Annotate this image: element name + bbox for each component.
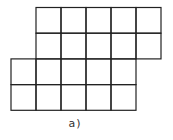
grid-cell: [61, 85, 86, 111]
grid-cell: [86, 85, 111, 111]
grid-cell: [11, 59, 36, 85]
grid-cell: [111, 8, 136, 34]
grid-cell: [61, 33, 86, 59]
figure-caption: a): [60, 117, 90, 130]
grid-cell: [11, 85, 36, 111]
grid-cell: [136, 8, 161, 34]
grid-cell: [86, 33, 111, 59]
grid-cell: [136, 33, 161, 59]
grid-cell: [36, 33, 61, 59]
grid-cell: [86, 59, 111, 85]
grid-cell: [36, 59, 61, 85]
grid-cell: [36, 85, 61, 111]
grid-cell: [36, 8, 61, 34]
grid-cells: [11, 8, 161, 111]
grid-cell: [111, 85, 136, 111]
grid-cell: [61, 59, 86, 85]
grid-cell: [86, 8, 111, 34]
grid-cell: [111, 33, 136, 59]
grid-cell: [61, 8, 86, 34]
grid-cell: [111, 59, 136, 85]
